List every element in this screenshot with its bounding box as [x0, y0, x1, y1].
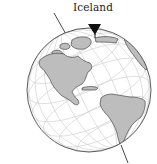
globe — [7, 8, 157, 164]
globe-illustration — [0, 0, 157, 164]
arctic-islands — [95, 37, 118, 43]
south-axis-line — [121, 145, 128, 163]
